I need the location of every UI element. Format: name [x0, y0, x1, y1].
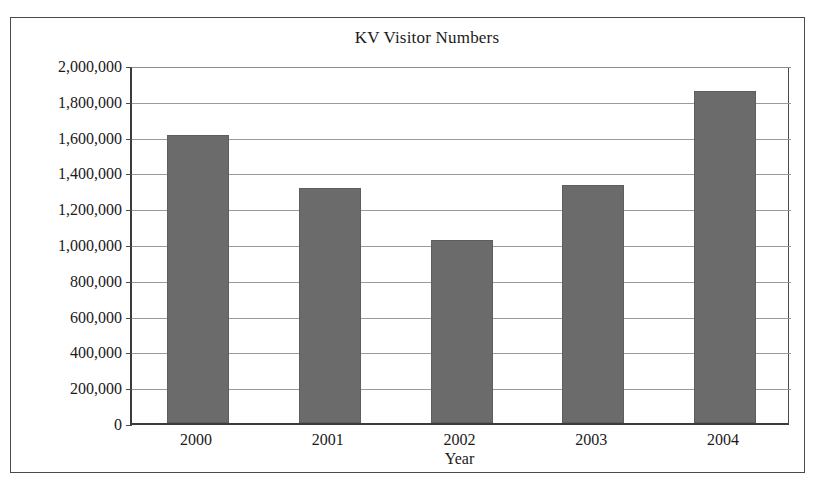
- y-axis-tick-mark: [126, 389, 132, 390]
- y-axis-tick-label: 1,600,000: [10, 131, 122, 147]
- y-axis-tick-labels: 2,000,0001,800,0001,600,0001,400,0001,20…: [8, 0, 122, 491]
- y-axis-tick-mark: [126, 174, 132, 175]
- bar-2001: [299, 188, 361, 423]
- gridline: [132, 103, 791, 104]
- y-axis-tick-mark: [126, 67, 132, 68]
- chart-figure: KV Visitor Numbers 2,000,0001,800,0001,6…: [0, 0, 816, 491]
- x-axis-tick-label: 2003: [525, 430, 657, 450]
- gridline: [132, 210, 791, 211]
- y-axis-tick-label: 200,000: [10, 381, 122, 397]
- y-axis-tick-label: 800,000: [10, 274, 122, 290]
- gridline: [132, 67, 791, 68]
- gridline: [132, 139, 791, 140]
- x-axis-tick-label: 2002: [394, 430, 526, 450]
- x-axis-tick-label: 2000: [130, 430, 262, 450]
- y-axis-tick-mark: [126, 353, 132, 354]
- y-axis-tick-label: 1,400,000: [10, 166, 122, 182]
- chart-title-text: KV Visitor Numbers: [355, 28, 500, 48]
- y-axis-tick-mark: [126, 282, 132, 283]
- bar-2004: [694, 91, 756, 423]
- y-axis-tick-label: 1,200,000: [10, 202, 122, 218]
- chart-title: KV Visitor Numbers: [0, 28, 816, 48]
- y-axis-tick-mark: [126, 318, 132, 319]
- y-axis-tick-label: 1,000,000: [10, 238, 122, 254]
- x-axis-title: Year: [130, 450, 789, 468]
- x-axis-tick-label: 2004: [657, 430, 789, 450]
- y-axis-tick-label: 0: [10, 417, 122, 433]
- plot-area: [130, 67, 789, 425]
- y-axis-tick-mark: [126, 246, 132, 247]
- bar-2003: [562, 185, 624, 423]
- y-axis-tick-label: 2,000,000: [10, 59, 122, 75]
- y-axis-tick-mark: [126, 425, 132, 426]
- y-axis-tick-mark: [126, 103, 132, 104]
- y-axis-tick-mark: [126, 139, 132, 140]
- y-axis-tick-mark: [126, 210, 132, 211]
- x-axis-tick-label: 2001: [262, 430, 394, 450]
- bar-2000: [167, 135, 229, 423]
- y-axis-tick-label: 400,000: [10, 345, 122, 361]
- y-axis-tick-label: 600,000: [10, 310, 122, 326]
- gridline: [132, 174, 791, 175]
- y-axis-tick-label: 1,800,000: [10, 95, 122, 111]
- bar-2002: [431, 240, 493, 423]
